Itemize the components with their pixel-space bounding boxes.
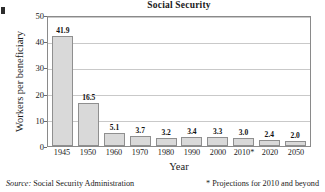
x-axis-label: Year xyxy=(47,161,311,172)
x-tick-label: 1945 xyxy=(49,148,75,160)
x-tick-label: 1960 xyxy=(101,148,127,160)
source-value: Social Security Administration xyxy=(31,179,134,188)
bar-value-label: 3.4 xyxy=(179,127,205,136)
bar-slot: 3.0 xyxy=(231,17,257,146)
bar-value-label: 16.5 xyxy=(76,93,102,102)
bar xyxy=(78,103,99,146)
x-tick-label: 1980 xyxy=(153,148,179,160)
bar-value-label: 5.1 xyxy=(102,123,128,132)
plot-area: 41.916.55.13.73.23.43.33.02.42.0 xyxy=(47,16,311,147)
y-axis-label: Workers per beneficiary xyxy=(14,17,25,147)
x-axis-ticks: 19451950196019701980199020002010*2020205… xyxy=(47,148,311,160)
bar xyxy=(104,133,125,146)
x-tick-label: 1990 xyxy=(179,148,205,160)
bar xyxy=(285,141,306,146)
bar xyxy=(207,137,228,146)
x-tick-label: 2010* xyxy=(231,148,257,160)
bar xyxy=(181,137,202,146)
chart-title: Social Security xyxy=(47,0,311,10)
bar-slot: 3.2 xyxy=(153,17,179,146)
x-tick-label: 2020 xyxy=(257,148,283,160)
y-tick-label: 40 xyxy=(20,38,44,46)
bar xyxy=(259,140,280,146)
y-tick-label: 10 xyxy=(20,117,44,125)
page-edge-artifact xyxy=(1,7,5,14)
x-tick-label: 1950 xyxy=(75,148,101,160)
bar-value-label: 3.2 xyxy=(153,128,179,137)
bar-value-label: 3.0 xyxy=(231,128,257,137)
bar-slot: 3.3 xyxy=(205,17,231,146)
y-tick-label: 0 xyxy=(20,143,44,151)
y-tick-label: 20 xyxy=(20,91,44,99)
y-tick-label: 50 xyxy=(20,12,44,20)
bar-slot: 16.5 xyxy=(76,17,102,146)
bar-value-label: 41.9 xyxy=(50,26,76,35)
bar xyxy=(52,36,73,146)
x-tick-label: 2050 xyxy=(283,148,309,160)
y-tick-label: 30 xyxy=(20,64,44,72)
bar-slot: 5.1 xyxy=(102,17,128,146)
projection-note: * Projections for 2010 and beyond xyxy=(206,179,319,188)
x-tick-label: 2000 xyxy=(205,148,231,160)
bar-slot: 2.4 xyxy=(256,17,282,146)
bar xyxy=(233,138,254,146)
bar-slot: 3.4 xyxy=(179,17,205,146)
bar-slot: 3.7 xyxy=(127,17,153,146)
bar-slot: 2.0 xyxy=(282,17,308,146)
bar-value-label: 3.7 xyxy=(127,126,153,135)
x-tick-label: 1970 xyxy=(127,148,153,160)
bar-series: 41.916.55.13.73.23.43.33.02.42.0 xyxy=(48,17,310,146)
bar-slot: 41.9 xyxy=(50,17,76,146)
bar-value-label: 2.4 xyxy=(256,130,282,139)
bar xyxy=(130,136,151,146)
bar-value-label: 2.0 xyxy=(282,131,308,140)
social-security-bar-chart-figure: Social Security Workers per beneficiary … xyxy=(0,0,325,192)
bar-value-label: 3.3 xyxy=(205,127,231,136)
source-label: Source: xyxy=(6,179,31,188)
bar xyxy=(156,138,177,146)
source-caption: Source: Social Security Administration xyxy=(6,179,134,188)
